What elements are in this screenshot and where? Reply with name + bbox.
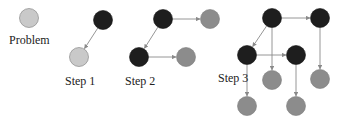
node-medium-circle: [177, 48, 196, 67]
node-medium-circle: [201, 10, 220, 29]
label-step-1: Step 1: [65, 74, 95, 88]
node-medium-circle: [263, 71, 282, 90]
node-dark-circle: [130, 48, 149, 67]
label-problem: Problem: [9, 33, 50, 47]
node-light-circle: [20, 9, 39, 28]
node-medium-circle: [311, 70, 330, 89]
label-step-3: Step 3: [218, 71, 248, 85]
edge-arrow: [253, 26, 267, 47]
node-medium-circle: [287, 97, 306, 116]
node-light-circle: [70, 48, 89, 67]
node-dark-circle: [238, 46, 257, 65]
edge-arrow: [144, 27, 158, 49]
edge-arrow: [84, 28, 97, 49]
node-dark-circle: [94, 11, 113, 30]
label-step-2: Step 2: [125, 74, 155, 88]
node-dark-circle: [263, 9, 282, 28]
node-medium-circle: [238, 97, 257, 116]
search-tree-diagram: Problem Step 1 Step 2 Step 3: [0, 0, 346, 124]
node-dark-circle: [287, 46, 306, 65]
nodes-layer: [20, 9, 330, 116]
node-dark-circle: [154, 10, 173, 29]
edges-layer: [84, 18, 320, 96]
node-dark-circle: [311, 9, 330, 28]
